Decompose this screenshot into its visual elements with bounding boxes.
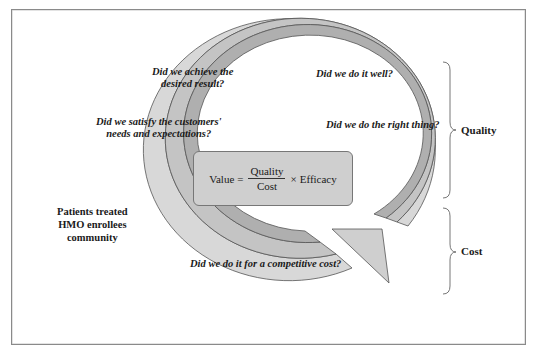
value-formula: Value = Quality Cost × Efficacy [194, 152, 352, 205]
label-hmo-enrollees: HMO enrollees [57, 218, 128, 231]
question-satisfy-line2: needs and expectations? [96, 128, 221, 140]
bracket-label-cost: Cost [461, 245, 482, 257]
formula-denominator: Cost [257, 179, 277, 192]
cost-brace-icon [443, 208, 456, 294]
formula-value: Value [209, 173, 234, 185]
label-patients-treated: Patients treated [57, 205, 128, 218]
bracket-label-quality: Quality [461, 124, 496, 136]
formula-fraction: Quality Cost [248, 165, 285, 192]
formula-times: × [290, 173, 296, 185]
question-achieve-line1: Did we achieve the [152, 66, 233, 78]
population-labels: Patients treated HMO enrollees community [57, 205, 128, 244]
quality-brace-icon [443, 62, 456, 198]
question-satisfy: Did we satisfy the customers' needs and … [96, 116, 221, 140]
value-formula-box: Value = Quality Cost × Efficacy [193, 151, 353, 206]
formula-numerator: Quality [248, 165, 285, 179]
question-satisfy-line1: Did we satisfy the customers' [96, 116, 221, 128]
question-well-line1: Did we do it well? [316, 68, 393, 80]
question-right-line1: Did we do the right thing? [326, 119, 439, 131]
question-achieve: Did we achieve the desired result? [152, 66, 233, 90]
question-cost: Did we do it for a competitive cost? [190, 258, 341, 270]
question-cost-line1: Did we do it for a competitive cost? [190, 258, 341, 270]
question-achieve-line2: desired result? [152, 78, 233, 90]
question-well: Did we do it well? [316, 68, 393, 80]
label-community: community [57, 231, 128, 244]
question-right: Did we do the right thing? [326, 119, 439, 131]
formula-efficacy: Efficacy [300, 173, 337, 185]
formula-equals: = [237, 173, 243, 185]
